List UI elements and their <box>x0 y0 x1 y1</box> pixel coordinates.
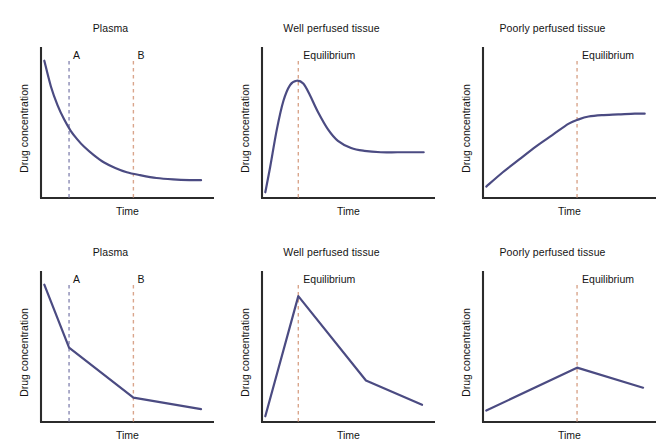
x-axis-label: Time <box>116 429 139 441</box>
x-axis-label: Time <box>558 205 581 217</box>
y-axis-label: Drug concentration <box>460 308 472 397</box>
plot-area: EquilibriumTimeDrug concentration <box>221 0 442 223</box>
data-series-line <box>265 81 423 193</box>
data-series-line <box>486 114 644 187</box>
equilibrium-label: Equilibrium <box>303 49 355 61</box>
plot-area: ABTimeDrug concentration <box>0 224 221 447</box>
equilibrium-label: Equilibrium <box>582 273 634 285</box>
chart-panel-bottom-plasma: PlasmaABTimeDrug concentration <box>0 224 221 447</box>
y-axis-label: Drug concentration <box>18 84 30 173</box>
plot-area: EquilibriumTimeDrug concentration <box>442 0 663 223</box>
plot-area: ABTimeDrug concentration <box>0 0 221 223</box>
plot-area: EquilibriumTimeDrug concentration <box>221 224 442 447</box>
plot-area: EquilibriumTimeDrug concentration <box>442 224 663 447</box>
chart-panel-top-plasma: PlasmaABTimeDrug concentration <box>0 0 221 223</box>
x-axis-label: Time <box>558 429 581 441</box>
marker-label-b: B <box>137 273 144 285</box>
data-series-line <box>486 368 643 411</box>
chart-panel-top-poorly-perfused: Poorly perfused tissueEquilibriumTimeDru… <box>442 0 663 223</box>
data-series-line <box>44 61 201 180</box>
marker-label-a: A <box>73 49 80 61</box>
y-axis-label: Drug concentration <box>239 308 251 397</box>
x-axis-label: Time <box>337 205 360 217</box>
data-series-line <box>44 285 201 409</box>
chart-panel-top-well-perfused: Well perfused tissueEquilibriumTimeDrug … <box>221 0 442 223</box>
marker-label-b: B <box>137 49 144 61</box>
y-axis-label: Drug concentration <box>239 84 251 173</box>
data-series-line <box>265 296 422 416</box>
y-axis-label: Drug concentration <box>460 84 472 173</box>
chart-panel-bottom-poorly-perfused: Poorly perfused tissueEquilibriumTimeDru… <box>442 224 663 447</box>
chart-panel-bottom-well-perfused: Well perfused tissueEquilibriumTimeDrug … <box>221 224 442 447</box>
x-axis-label: Time <box>116 205 139 217</box>
equilibrium-label: Equilibrium <box>303 273 355 285</box>
equilibrium-label: Equilibrium <box>582 49 634 61</box>
marker-label-a: A <box>73 273 80 285</box>
y-axis-label: Drug concentration <box>18 308 30 397</box>
x-axis-label: Time <box>337 429 360 441</box>
pharmacokinetics-figure: PlasmaABTimeDrug concentrationWell perfu… <box>0 0 663 447</box>
